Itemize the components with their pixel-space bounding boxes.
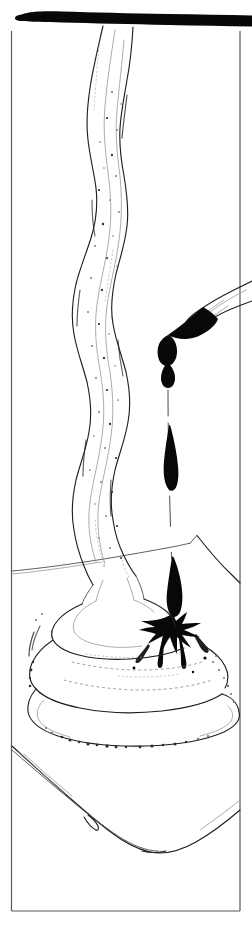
ink-drop-illustration: [0, 0, 252, 926]
canvas-background: [0, 0, 252, 926]
illustration-artboard: [0, 0, 252, 926]
